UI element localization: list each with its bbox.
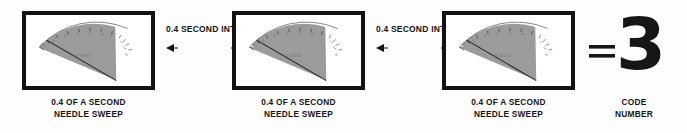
caption-line-2: NEEDLE SWEEP xyxy=(22,109,155,121)
caption-line-1: 0.4 OF A SECOND xyxy=(442,97,575,109)
panel-caption-3: 0.4 OF A SECOND NEEDLE SWEEP xyxy=(442,97,575,120)
code-number-value: 3 xyxy=(616,8,668,80)
code-caption-line-2: NUMBER xyxy=(592,109,676,121)
gauge-face-label: DC VOLTS xyxy=(494,54,511,58)
meter-panel-3: 0 2 4 6 8 10 12 14 16 DC VOLTS xyxy=(442,11,575,90)
code-caption-line-1: CODE xyxy=(592,97,676,109)
svg-text:16: 16 xyxy=(334,52,339,57)
gauge-scale-numbers-unswept: 12 14 16 xyxy=(118,40,129,58)
gauge-scale-numbers-unswept: 12 14 16 xyxy=(538,40,549,58)
panel-caption-2: 0.4 OF A SECOND NEEDLE SWEEP xyxy=(232,97,365,120)
svg-text:14: 14 xyxy=(122,45,128,50)
arrow-head-left-icon xyxy=(376,44,384,52)
needle-sweep-diagram: 0 2 4 6 8 10 12 14 16 DC VOLTS xyxy=(0,0,687,133)
gauge-face-label: DC VOLTS xyxy=(74,54,91,58)
caption-line-2: NEEDLE SWEEP xyxy=(232,109,365,121)
svg-text:14: 14 xyxy=(332,45,338,50)
voltmeter-gauge-1: 0 2 4 6 8 10 12 14 16 DC VOLTS xyxy=(26,15,151,86)
code-number-caption: CODE NUMBER xyxy=(592,97,676,120)
panel-caption-1: 0.4 OF A SECOND NEEDLE SWEEP xyxy=(22,97,155,120)
meter-panel-1: 0 2 4 6 8 10 12 14 16 DC VOLTS xyxy=(22,11,155,90)
gauge-face-label: DC VOLTS xyxy=(284,54,301,58)
caption-line-1: 0.4 OF A SECOND xyxy=(232,97,365,109)
gauge-scale-numbers-unswept: 12 14 16 xyxy=(328,40,339,58)
svg-text:14: 14 xyxy=(542,45,548,50)
arrow-head-left-icon xyxy=(166,44,174,52)
equals-sign-icon xyxy=(589,44,615,60)
caption-line-1: 0.4 OF A SECOND xyxy=(22,97,155,109)
svg-text:16: 16 xyxy=(124,52,129,57)
svg-text:16: 16 xyxy=(544,52,549,57)
voltmeter-gauge-2: 0 2 4 6 8 10 12 14 16 DC VOLTS xyxy=(236,15,361,86)
voltmeter-gauge-3: 0 2 4 6 8 10 12 14 16 DC VOLTS xyxy=(446,15,571,86)
caption-line-2: NEEDLE SWEEP xyxy=(442,109,575,121)
meter-panel-2: 0 2 4 6 8 10 12 14 16 DC VOLTS xyxy=(232,11,365,90)
